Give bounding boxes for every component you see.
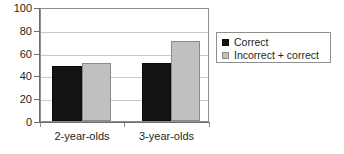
legend-swatch-icon-incorrect-correct bbox=[222, 52, 229, 59]
legend-label-correct: Correct bbox=[234, 37, 268, 48]
bar-2-year-olds-correct bbox=[52, 66, 82, 121]
x-tick-label-3-year-olds: 3-year-olds bbox=[124, 130, 209, 142]
y-tick-label-40: 40 bbox=[0, 71, 32, 82]
y-tick-label-80: 80 bbox=[0, 26, 32, 37]
x-tick-mark-right bbox=[209, 123, 210, 127]
legend-label-incorrect-correct: Incorrect + correct bbox=[234, 50, 319, 61]
bar-3-year-olds-correct bbox=[142, 63, 171, 121]
bar-3-year-olds-incorrect-correct bbox=[171, 41, 200, 121]
y-tick-label-20: 20 bbox=[0, 94, 32, 105]
x-tick-mark-left bbox=[40, 123, 41, 127]
y-tick-label-0: 0 bbox=[0, 117, 32, 128]
legend-swatch-icon-correct bbox=[222, 39, 229, 46]
legend-entry-incorrect-correct: Incorrect + correct bbox=[222, 49, 326, 61]
x-tick-mark-middle bbox=[124, 123, 125, 127]
bar-2-year-olds-incorrect-correct bbox=[82, 63, 111, 121]
y-tick-label-100: 100 bbox=[0, 3, 32, 14]
bars-layer bbox=[41, 9, 208, 121]
x-tick-label-2-year-olds: 2-year-olds bbox=[40, 130, 124, 142]
plot-area bbox=[40, 8, 209, 122]
legend-entry-correct: Correct bbox=[222, 36, 326, 48]
legend: Correct Incorrect + correct bbox=[216, 32, 331, 63]
bar-chart: 100 80 60 40 20 0 2-year-olds 3-year-old… bbox=[0, 0, 344, 154]
y-tick-label-60: 60 bbox=[0, 49, 32, 60]
